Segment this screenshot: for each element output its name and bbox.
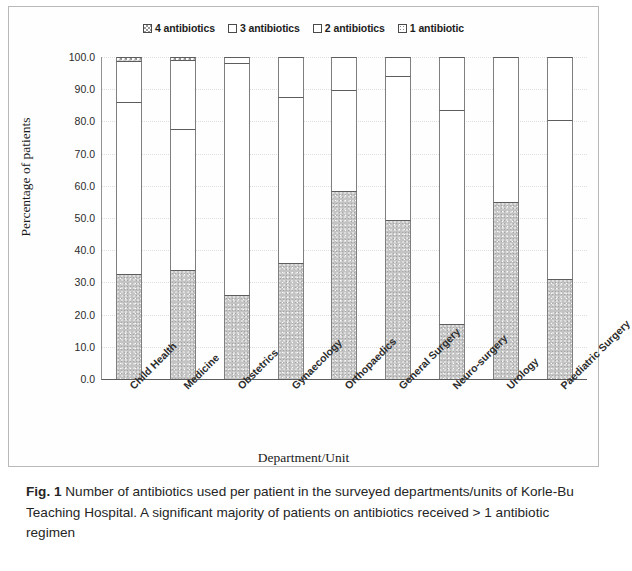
bar-segment (116, 274, 142, 379)
y-axis-tick: 40.0 (75, 244, 95, 256)
legend-label: 4 antibiotics (155, 22, 215, 34)
bar-segment (224, 295, 250, 379)
stacked-bar (493, 57, 519, 379)
legend-label: 2 antibiotics (325, 22, 385, 34)
x-axis-tick-wrap: Paediatric Surgery (546, 381, 572, 451)
x-axis-tick-wrap: Urology (492, 381, 518, 451)
bar-segment (385, 57, 411, 76)
stacked-bar (331, 57, 357, 379)
x-axis-tick-wrap: General Surgery (384, 381, 410, 451)
y-axis-tick: 70.0 (75, 148, 95, 160)
y-axis-tick: 30.0 (75, 276, 95, 288)
bar-segment (278, 97, 304, 263)
legend-item: 1 antibiotic (398, 22, 464, 34)
bar-segment (170, 129, 196, 269)
bar-segment (547, 120, 573, 279)
legend-swatch-icon (313, 24, 322, 33)
figure-caption-label: Fig. 1 (26, 484, 62, 499)
bar-segment (547, 57, 573, 120)
bar-segment (170, 60, 196, 129)
legend-label: 3 antibiotics (240, 22, 300, 34)
y-axis-tick: 10.0 (75, 341, 95, 353)
bar-segment (385, 220, 411, 379)
figure-panel: 4 antibiotics3 antibiotics2 antibiotics1… (8, 6, 599, 467)
bar-segment (116, 61, 142, 102)
bar-segment (170, 270, 196, 379)
bar-segment (116, 102, 142, 274)
bar-segment (331, 90, 357, 190)
legend-swatch-icon (398, 24, 407, 33)
bar-segment (278, 263, 304, 379)
y-axis-tick: 0.0 (80, 373, 95, 385)
plot-area (101, 57, 587, 380)
x-axis-tick-wrap: Gynaecology (277, 381, 303, 451)
bar-segment (385, 76, 411, 220)
bar-group (102, 57, 587, 379)
figure-caption-text: Number of antibiotics used per patient i… (26, 484, 574, 540)
bar-segment (224, 63, 250, 295)
x-axis-tick-wrap: Medicine (169, 381, 195, 451)
x-axis-tick-labels: Child HealthMedicineObstetricsGynaecolog… (101, 381, 586, 451)
legend-item: 2 antibiotics (313, 22, 385, 34)
x-axis-tick-wrap: Neuro-surgery (438, 381, 464, 451)
stacked-bar (170, 57, 196, 379)
legend-item: 3 antibiotics (228, 22, 300, 34)
y-axis-tick: 20.0 (75, 309, 95, 321)
y-axis-tick: 50.0 (75, 212, 95, 224)
figure-caption: Fig. 1 Number of antibiotics used per pa… (26, 482, 582, 544)
bar-segment (331, 57, 357, 90)
stacked-bar (278, 57, 304, 379)
bar-segment (439, 110, 465, 324)
bar-segment (547, 279, 573, 379)
legend-label: 1 antibiotic (410, 22, 464, 34)
x-axis-tick-wrap: Orthopaedics (330, 381, 356, 451)
bar-segment (439, 57, 465, 110)
y-axis-tick: 100.0 (69, 51, 95, 63)
y-axis-tick: 60.0 (75, 180, 95, 192)
legend-item: 4 antibiotics (143, 22, 215, 34)
bar-segment (278, 57, 304, 97)
x-axis-tick-wrap: Obstetrics (223, 381, 249, 451)
x-axis-title: Department/Unit (9, 450, 598, 466)
legend-swatch-icon (143, 24, 152, 33)
chart-legend: 4 antibiotics3 antibiotics2 antibiotics1… (9, 22, 598, 34)
x-axis-tick-wrap: Child Health (115, 381, 141, 451)
legend-swatch-icon (228, 24, 237, 33)
y-axis-title: Percentage of patients (18, 82, 34, 272)
bar-segment (493, 57, 519, 202)
stacked-bar (385, 57, 411, 379)
y-axis-tick: 80.0 (75, 115, 95, 127)
stacked-bar (547, 57, 573, 379)
y-axis-tick: 90.0 (75, 83, 95, 95)
y-axis-tick-labels: 100.090.080.070.060.050.040.030.020.010.… (49, 57, 95, 379)
stacked-bar (116, 57, 142, 379)
stacked-bar (224, 57, 250, 379)
